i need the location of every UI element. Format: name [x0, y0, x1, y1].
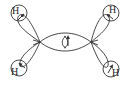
ch-lobe-bottom-left	[20, 42, 40, 67]
ch-lobe-top-left	[18, 15, 40, 42]
atom-label-h1: H	[12, 5, 19, 16]
atom-label-h2: H	[11, 66, 18, 77]
atom-label-h3: H	[109, 4, 116, 15]
cc-overlap-arc-left	[62, 36, 66, 48]
cc-sigma-bond	[40, 33, 91, 51]
atom-label-h4: H	[112, 67, 119, 78]
ethylene-orbital-diagram: H H H H	[0, 0, 126, 88]
ch-lobe-top-right	[91, 15, 109, 42]
cc-overlap-arc-right	[64, 36, 68, 48]
